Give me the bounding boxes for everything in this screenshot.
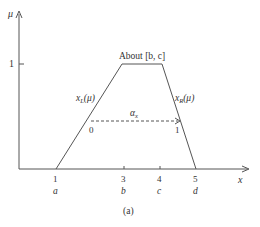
x-tick-letter-b: b (121, 186, 126, 196)
membership-trapezoid (56, 64, 196, 169)
figure-caption: (a) (123, 206, 134, 217)
x-tick-value-a: 1 (53, 174, 58, 184)
dashed-start-label: 0 (89, 125, 94, 135)
x-tick-value-d: 5 (193, 174, 198, 184)
y-tick-one-label: 1 (9, 58, 14, 69)
left-branch-label: xL(μ) (75, 93, 95, 104)
trapezoid-diagram: μ 1 x About [b, c] xL(μ) xR(μ) αx 0 1 1 … (0, 0, 260, 227)
x-tick-letter-a: a (53, 186, 58, 196)
y-axis-label: μ (7, 8, 13, 19)
x-tick-letter-d: d (193, 186, 198, 196)
x-tick-letter-c: c (157, 186, 162, 196)
plateau-label: About [b, c] (119, 51, 165, 61)
alpha-label: αx (130, 108, 138, 119)
x-axis-label: x (237, 174, 243, 185)
x-tick-value-b: 3 (121, 174, 126, 184)
right-branch-label: xR(μ) (174, 93, 194, 104)
dashed-end-label: 1 (175, 125, 180, 135)
x-tick-value-c: 4 (157, 174, 162, 184)
